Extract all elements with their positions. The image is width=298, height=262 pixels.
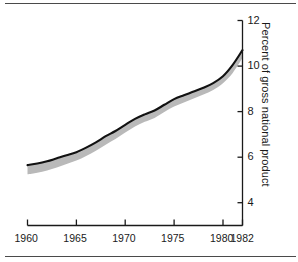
y-tick-label-12: 12	[248, 15, 260, 26]
chart-plot-area	[0, 0, 298, 262]
y-axis-tick-marks	[238, 21, 243, 203]
y-tick-label-6: 6	[248, 151, 254, 162]
x-tick-label-1982: 1982	[231, 233, 254, 244]
line-chart-svg	[0, 0, 298, 262]
x-tick-label-1960: 1960	[15, 233, 38, 244]
x-tick-label-1970: 1970	[112, 233, 135, 244]
data-line	[28, 50, 243, 165]
x-tick-label-1965: 1965	[63, 233, 86, 244]
x-axis-tick-marks	[28, 220, 243, 226]
y-tick-label-10: 10	[248, 60, 260, 71]
figure-container: 12 10 8 6 4 1960 1965 1970 1975 1980 198…	[0, 0, 298, 262]
y-axis-title: Percent of gross national product	[260, 22, 272, 232]
y-tick-label-4: 4	[248, 197, 254, 208]
x-tick-label-1975: 1975	[161, 233, 184, 244]
uncertainty-band	[28, 50, 243, 174]
y-tick-label-8: 8	[248, 106, 254, 117]
